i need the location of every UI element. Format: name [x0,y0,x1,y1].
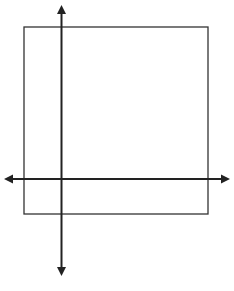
axes-diagram [0,0,234,291]
arrow-left-icon [4,175,13,184]
arrow-down-icon [57,267,66,276]
square [24,27,208,214]
arrow-right-icon [221,175,230,184]
arrow-up-icon [57,5,66,14]
